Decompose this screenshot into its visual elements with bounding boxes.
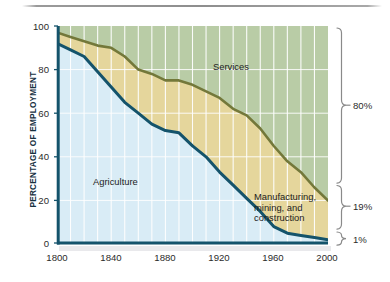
services-bracket-shape: [337, 28, 346, 183]
y-tick-label-0: 0: [23, 238, 49, 249]
manufacturing-label-line-3: construction: [254, 212, 305, 223]
manufacturing-bracket-label: 19%: [353, 201, 372, 212]
y-tick-label-100: 100: [23, 21, 49, 32]
manufacturing-label-line-2: mining, and: [254, 202, 302, 213]
x-tick-label-2000: 2000: [307, 252, 347, 263]
x-tick-label-1840: 1840: [91, 252, 131, 263]
services-area-label: Services: [213, 62, 249, 73]
manufacturing-bracket-shape: [337, 186, 346, 230]
chart-figure: PERCENTAGE OF EMPLOYMENT 100 80 60 40 20…: [0, 0, 390, 282]
x-tick-label-1920: 1920: [199, 252, 239, 263]
right-bracket-group: [337, 28, 346, 245]
y-tick-label-20: 20: [23, 195, 49, 206]
x-tick-label-1880: 1880: [145, 252, 185, 263]
manufacturing-label-line-1: Manufacturing,: [254, 191, 316, 202]
manufacturing-area-label: Manufacturing, mining, and construction: [254, 192, 316, 224]
y-tick-label-60: 60: [23, 108, 49, 119]
employment-area-chart: [0, 0, 390, 282]
agriculture-area-label: Agriculture: [93, 177, 138, 188]
services-bracket-label: 80%: [353, 100, 372, 111]
y-tick-label-80: 80: [23, 64, 49, 75]
agriculture-bracket-shape: [337, 232, 346, 245]
bracket-tick-dashes: [346, 105, 351, 206]
x-tick-label-1800: 1800: [37, 252, 77, 263]
y-tick-label-40: 40: [23, 151, 49, 162]
x-tick-label-1960: 1960: [253, 252, 293, 263]
plot-shadow: [59, 246, 331, 251]
agriculture-bracket-label: 1%: [353, 234, 367, 245]
